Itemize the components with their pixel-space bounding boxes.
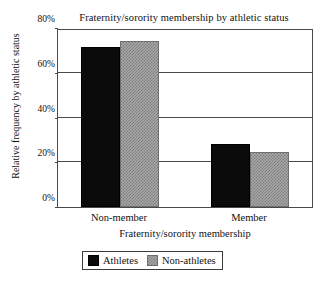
legend-swatch-athletes (88, 255, 99, 266)
bar-non-member-non-athletes (120, 41, 159, 207)
x-tick-label-member: Member (189, 211, 309, 224)
y-tick-label: 80% (3, 14, 55, 24)
bar-member-non-athletes (250, 152, 289, 207)
y-tick-label: 60% (3, 59, 55, 69)
bar-non-member-athletes (81, 47, 120, 207)
bar-chart: Fraternity/sorority membership by athlet… (0, 0, 328, 284)
chart-title: Fraternity/sorority membership by athlet… (55, 11, 313, 24)
y-tick-label: 40% (3, 104, 55, 114)
bar-member-athletes (211, 144, 250, 207)
y-tick-label: 20% (3, 148, 55, 158)
legend-swatch-non-athletes (147, 255, 158, 266)
x-axis-title: Fraternity/sorority membership (57, 227, 313, 240)
chart-legend: AthletesNon-athletes (82, 251, 223, 270)
y-tick-label: 0% (3, 193, 55, 203)
x-tick-label-non-member: Non-member (59, 211, 179, 224)
legend-label: Non-athletes (162, 254, 216, 267)
legend-entry-non-athletes: Non-athletes (147, 254, 216, 267)
plot-area (57, 29, 313, 208)
y-axis-ticks: 0%20%40%60%80% (0, 29, 55, 208)
legend-entry-athletes: Athletes (88, 254, 138, 267)
legend-label: Athletes (103, 254, 138, 267)
